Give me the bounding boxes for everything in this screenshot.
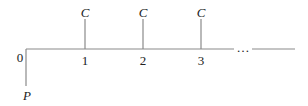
principal-label: P [22,88,31,103]
cash-flow-diagram: … 0 P C1C2C3 [0,0,308,106]
payment-label-2: C [139,5,148,20]
payment-label-3: C [197,5,206,20]
period-label-0: 0 [17,50,24,65]
period-label-1: 1 [82,53,89,68]
payment-label-1: C [81,5,90,20]
continuation-ellipsis: … [237,40,250,55]
period-label-2: 2 [140,53,147,68]
period-label-3: 3 [198,53,205,68]
